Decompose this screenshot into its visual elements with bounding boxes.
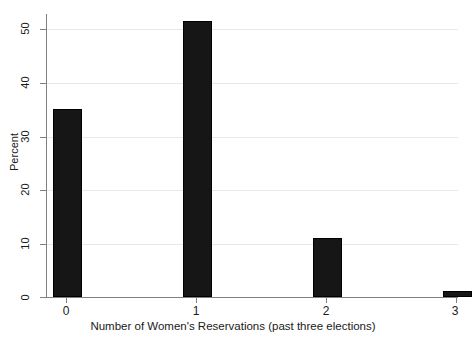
x-tick-mark-1	[196, 298, 197, 303]
x-tick-mark-2	[326, 298, 327, 303]
y-tick-label-30: 30	[20, 120, 31, 154]
gridline-50	[46, 29, 458, 30]
x-tick-label-2: 2	[315, 304, 337, 318]
y-tick-label-40: 40	[20, 66, 31, 100]
plot-area	[46, 14, 458, 297]
y-tick-mark-10	[40, 244, 46, 245]
gridline-40	[46, 83, 458, 84]
x-axis-title: Number of Women's Reservations (past thr…	[0, 320, 466, 333]
x-axis-line	[46, 297, 458, 298]
y-tick-mark-30	[40, 137, 46, 138]
gridline-20	[46, 190, 458, 191]
y-tick-label-20: 20	[20, 173, 31, 207]
x-tick-label-0: 0	[55, 304, 77, 318]
gridline-30	[46, 137, 458, 138]
y-tick-mark-20	[40, 190, 46, 191]
y-tick-label-50: 50	[20, 12, 31, 46]
y-axis-title: Percent	[8, 122, 20, 182]
x-tick-label-3: 3	[444, 304, 466, 318]
x-tick-label-1: 1	[185, 304, 207, 318]
y-tick-label-10: 10	[20, 227, 31, 261]
bar-1	[183, 21, 212, 297]
x-tick-mark-0	[66, 298, 67, 303]
y-tick-mark-0	[40, 297, 46, 298]
y-tick-mark-40	[40, 83, 46, 84]
bar-2	[313, 238, 342, 297]
y-tick-mark-50	[40, 29, 46, 30]
bar-0	[53, 109, 82, 297]
x-tick-mark-3	[456, 298, 457, 303]
y-axis-line	[46, 14, 47, 298]
gridline-10	[46, 244, 458, 245]
y-tick-label-0: 0	[20, 281, 31, 315]
